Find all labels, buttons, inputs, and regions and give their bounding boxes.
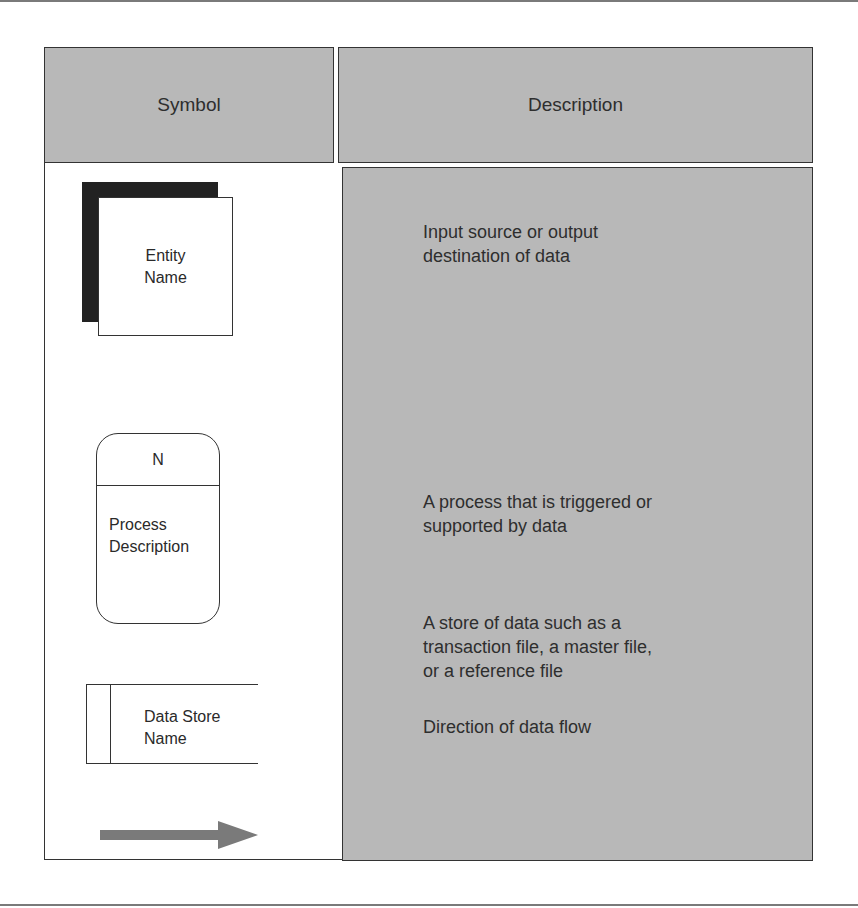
description-entity-line2: destination of data	[423, 244, 598, 268]
entity-label-line2: Name	[144, 267, 187, 289]
store-label-line1: Data Store	[144, 706, 220, 728]
external-entity-symbol: Entity Name	[98, 197, 233, 336]
store-label: Data Store Name	[144, 706, 220, 750]
description-store-line2: transaction file, a master file,	[423, 635, 652, 659]
process-symbol: N Process Description	[96, 433, 220, 624]
process-label: Process Description	[97, 486, 219, 558]
process-label-line2: Description	[109, 536, 219, 558]
store-divider-line	[110, 684, 111, 764]
process-id: N	[97, 434, 219, 486]
data-store-symbol: Data Store Name	[86, 684, 258, 763]
description-flow: Direction of data flow	[423, 715, 591, 739]
description-store: A store of data such as a transaction fi…	[423, 611, 652, 683]
description-store-line3: or a reference file	[423, 659, 652, 683]
header-symbol: Symbol	[44, 47, 334, 163]
entity-label-line1: Entity	[144, 245, 187, 267]
store-bottom-line	[86, 763, 258, 764]
header-description-label: Description	[528, 94, 623, 116]
description-process-line1: A process that is triggered or	[423, 490, 652, 514]
header-symbol-label: Symbol	[157, 94, 220, 116]
data-flow-arrow-icon	[100, 821, 258, 849]
description-process: A process that is triggered or supported…	[423, 490, 652, 538]
description-column: Input source or output destination of da…	[342, 167, 813, 861]
store-left-line	[86, 684, 87, 764]
store-label-line2: Name	[144, 728, 220, 750]
description-entity-line1: Input source or output	[423, 220, 598, 244]
description-store-line1: A store of data such as a	[423, 611, 652, 635]
description-process-line2: supported by data	[423, 514, 652, 538]
store-top-line	[86, 684, 258, 685]
bottom-rule	[0, 904, 858, 906]
dfd-symbol-table: Symbol Description Entity Name N Process…	[44, 47, 858, 861]
process-label-line1: Process	[109, 514, 219, 536]
description-flow-line1: Direction of data flow	[423, 715, 591, 739]
top-rule	[0, 0, 858, 2]
description-entity: Input source or output destination of da…	[423, 220, 598, 268]
header-description: Description	[338, 47, 813, 163]
